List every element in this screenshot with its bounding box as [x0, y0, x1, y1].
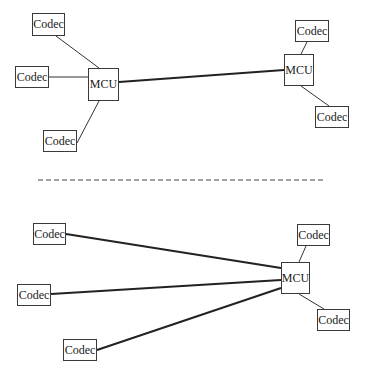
codec-bottom-remote-3: Codec — [63, 339, 97, 361]
codec-top-left-2: Codec — [15, 66, 49, 88]
codec-top-right-2: Codec — [315, 106, 349, 128]
codec-top-right-1: Codec — [295, 20, 329, 42]
codec-top-left-1: Codec — [32, 13, 65, 36]
codec-top-left-3: Codec — [43, 130, 77, 152]
link-codec-rightbottom-mcu — [301, 86, 329, 106]
mcu-top-right: MCU — [284, 54, 314, 86]
link-codec-bottom-mcu — [77, 101, 99, 143]
codec-bottom-remote-2: Codec — [17, 284, 51, 306]
codec-bottom-local-2: Codec — [317, 309, 350, 331]
codec-bottom-local-1: Codec — [297, 224, 330, 246]
thick-link-codec3-mcu — [97, 288, 281, 350]
trunk-mcu-mcu — [119, 70, 284, 82]
link-codec-righttop-mcu — [301, 42, 307, 54]
thick-link-codec2-mcu — [51, 280, 281, 294]
mcu-top-left: MCU — [88, 68, 119, 101]
link-local-codec-top-mcu — [299, 246, 306, 262]
link-codec-top-mcu — [56, 36, 99, 68]
codec-bottom-remote-1: Codec — [33, 223, 66, 245]
link-local-codec-bottom-mcu — [299, 294, 324, 309]
thick-link-codec1-mcu — [66, 234, 281, 268]
mcu-bottom: MCU — [281, 262, 310, 294]
